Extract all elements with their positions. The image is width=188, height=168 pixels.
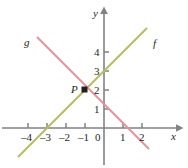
y-axis-arrowhead: [100, 7, 108, 15]
point-p-marker: [82, 87, 88, 93]
x-tick-label--3: –3: [40, 132, 51, 143]
x-tick-label-2: 2: [139, 132, 145, 143]
y-tick-label-3: 3: [94, 66, 100, 77]
x-tick-label-1: 1: [120, 132, 126, 143]
x-tick-label--1: –1: [78, 132, 89, 143]
point-label-p: P: [71, 84, 78, 95]
x-tick-label--2: –2: [59, 132, 70, 143]
x-axis-arrowhead: [176, 124, 184, 132]
y-axis-label: y: [93, 8, 98, 19]
curve-label-g: g: [24, 37, 30, 48]
x-tick-label--4: –4: [21, 132, 32, 143]
curve-label-f: f: [153, 38, 156, 49]
y-tick-label-2: 2: [94, 85, 100, 96]
x-tick-label-0: 0: [95, 132, 101, 143]
graph-figure: –4 –3 –2 –1 0 1 2 1 2 3 4 x y g f P: [0, 0, 188, 168]
y-tick-label-4: 4: [94, 47, 100, 58]
line-g: [37, 37, 149, 149]
x-axis-label: x: [171, 131, 176, 142]
y-tick-label-1: 1: [94, 104, 100, 115]
